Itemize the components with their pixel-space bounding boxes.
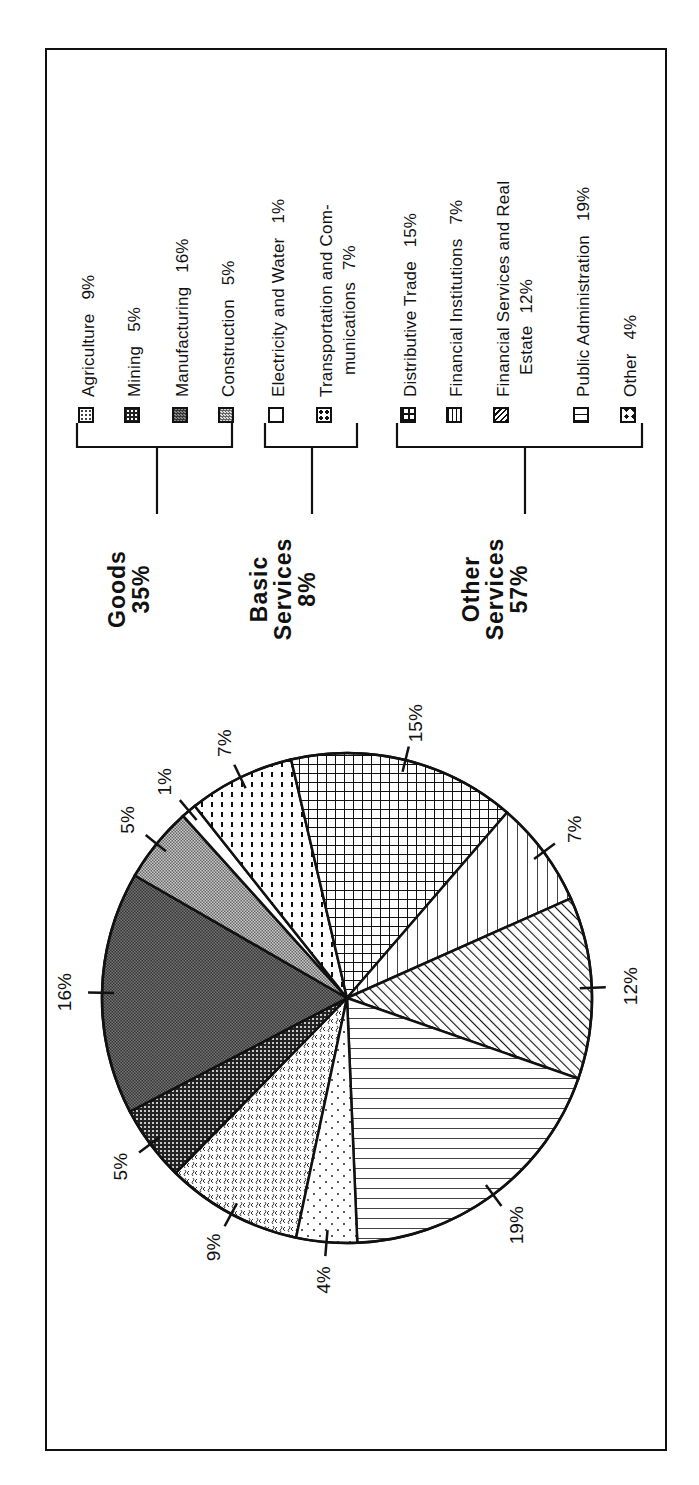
- group-goods-pct: 35%: [129, 519, 153, 659]
- construction-swatch-icon: [218, 407, 234, 423]
- transportation-swatch-icon: [316, 407, 332, 423]
- chart-frame: 9%5%16%5%1%7%15%7%12%19%4% Goods 35% Bas…: [45, 48, 667, 1451]
- legend-label: Distributive Trade: [399, 261, 422, 397]
- legend-pct: 4%: [619, 315, 642, 340]
- group-basic-name-1: Basic: [247, 519, 271, 659]
- legend-label: Electricity and Water: [267, 238, 290, 397]
- distributive-swatch-icon: [400, 407, 416, 423]
- pie-slices: [102, 753, 592, 1243]
- legend-label-line1: Transportation and Com-: [317, 204, 336, 397]
- group-other-name-1: Other: [459, 519, 483, 659]
- legend-pct: 15%: [399, 213, 422, 247]
- slice-label-fin-svc: 12%: [620, 967, 641, 1005]
- legend-label: Financial Institutions: [445, 239, 468, 397]
- slice-label-electricity: 1%: [154, 768, 175, 796]
- legend-item-agriculture: Agriculture 9%: [77, 275, 99, 423]
- legend-pct: 7%: [445, 200, 468, 225]
- fin-inst-swatch-icon: [446, 407, 462, 423]
- slice-label-distributive: 15%: [405, 704, 426, 742]
- agriculture-swatch-icon: [78, 407, 94, 423]
- slice-label-public-admin: 19%: [506, 1206, 527, 1244]
- group-label-goods: Goods 35%: [105, 519, 153, 659]
- legend-pct: 7%: [340, 245, 359, 270]
- legend-label-line2: munications: [340, 282, 359, 397]
- legend-label: Agriculture: [77, 314, 100, 397]
- group-other-name-2: Services: [483, 519, 507, 659]
- legend-label: Mining: [123, 346, 146, 397]
- legend-pct: 5%: [217, 261, 240, 286]
- goods-bracket: [77, 423, 232, 447]
- legend-item-construction: Construction 5%: [217, 261, 239, 423]
- electricity-swatch-icon: [268, 407, 284, 423]
- legend-label: Public Administration: [572, 235, 595, 397]
- slice-label-construction: 5%: [117, 806, 138, 834]
- legend-pct: 16%: [171, 239, 194, 273]
- basic-bracket: [265, 423, 357, 447]
- legend-item-financial-services: Financial Services and RealEstate12%: [492, 181, 540, 423]
- slice-label-manufacturing: 16%: [54, 973, 75, 1011]
- legend-pct: 5%: [123, 307, 146, 332]
- slice-label-mining: 5%: [110, 1153, 131, 1181]
- slice-label-agriculture: 9%: [203, 1234, 224, 1262]
- legend-item-financial-institutions: Financial Institutions 7%: [445, 200, 467, 423]
- group-brackets: [77, 423, 642, 514]
- legend-pct: 9%: [77, 275, 100, 300]
- group-label-basic-services: Basic Services 8%: [247, 519, 319, 659]
- group-goods-name: Goods: [105, 519, 129, 659]
- group-basic-name-2: Services: [271, 519, 295, 659]
- legend-label: Financial Services and RealEstate12%: [492, 181, 538, 397]
- public-admin-swatch-icon: [573, 407, 589, 423]
- legend-label-line1: Financial Services and Real: [494, 181, 513, 397]
- legend-label-line2: Estate: [517, 326, 536, 397]
- other-bracket: [397, 423, 642, 447]
- legend-item-transportation: Transportation and Com-munications7%: [315, 204, 363, 423]
- mining-swatch-icon: [124, 407, 140, 423]
- legend-pct: 12%: [517, 279, 536, 314]
- slice-label-transport: 7%: [214, 729, 235, 757]
- other-swatch-icon: [620, 407, 636, 423]
- slice-tick: [580, 987, 606, 988]
- legend-item-public-administration: Public Administration 19%: [572, 187, 594, 423]
- legend-pct: 19%: [572, 187, 595, 221]
- legend-item-distributive-trade: Distributive Trade 15%: [399, 213, 421, 423]
- legend-label: Transportation and Com-munications7%: [315, 204, 361, 397]
- group-other-pct: 57%: [507, 519, 531, 659]
- legend-item-electricity-water: Electricity and Water 1%: [267, 199, 289, 423]
- legend-label: Construction: [217, 299, 240, 397]
- legend-item-mining: Mining 5%: [123, 307, 145, 423]
- slice-label-fin-inst: 7%: [564, 815, 585, 843]
- manufacturing-swatch-icon: [172, 407, 188, 423]
- legend-label: Manufacturing: [171, 287, 194, 397]
- group-basic-pct: 8%: [295, 519, 319, 659]
- legend-item-manufacturing: Manufacturing 16%: [171, 239, 193, 423]
- legend-label: Other: [619, 353, 642, 397]
- fin-svc-swatch-icon: [493, 407, 509, 423]
- legend-pct: 1%: [267, 199, 290, 224]
- group-label-other-services: Other Services 57%: [459, 519, 531, 659]
- slice-tick: [88, 993, 114, 994]
- slice-label-other: 4%: [313, 1266, 334, 1294]
- legend-item-other: Other 4%: [619, 315, 641, 423]
